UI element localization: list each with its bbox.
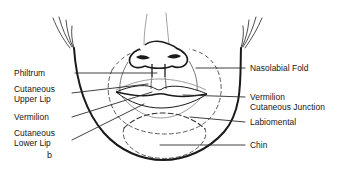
label-cutaneous-lower-lip-line-2: Lower Lip [14, 138, 55, 148]
label-cutaneous-lower-lip-line-1: Cutaneous [14, 128, 55, 138]
nose [129, 41, 187, 77]
label-labiomental: Labiomental [250, 117, 296, 127]
label-nasolabial-fold: Nasolabial Fold [250, 63, 308, 73]
leader-cutaneous-lower-lip [72, 104, 144, 140]
upper-lip-vermilion-border [116, 86, 207, 94]
panel-letter: b [47, 150, 52, 160]
nose-base [145, 66, 172, 68]
jaw-outline [74, 48, 241, 160]
nasolabial-fold-right [189, 61, 197, 91]
label-philtrum: Philtrum [14, 68, 45, 78]
label-cutaneous-upper-lip: Cutaneous Upper Lip [14, 84, 55, 104]
leader-cutaneous-upper-lip [72, 84, 148, 93]
leader-labiomental [190, 117, 245, 122]
nostrils [136, 54, 181, 59]
label-vermilion-left-line-1: Vermilion [14, 112, 49, 122]
label-chin: Chin [250, 140, 267, 150]
nose-tip [145, 41, 177, 49]
labiomental-fold-dashed [124, 113, 205, 129]
label-chin-line-1: Chin [250, 140, 267, 150]
label-nasolabial-fold-line-1: Nasolabial Fold [250, 63, 308, 73]
perioral-subunit-top-right-dashed [189, 49, 217, 69]
label-vermilion-left: Vermilion [14, 112, 49, 122]
label-philtrum-line-1: Philtrum [14, 68, 45, 78]
nostril-right [167, 54, 181, 58]
cutaneous-upper-lip-boundary [116, 79, 206, 90]
label-cutaneous-lower-lip: Cutaneous Lower Lip [14, 128, 55, 148]
label-vermilion-cutaneous-junction: Vermilion Cutaneous Junction [250, 92, 325, 112]
label-cutaneous-upper-lip-line-2: Upper Lip [14, 94, 55, 104]
label-vermilion-cutaneous-junction-line-2: Cutaneous Junction [250, 102, 325, 112]
hair-strokes-left [53, 17, 74, 48]
anatomy-figure: Philtrum Cutaneous Upper Lip Vermilion C… [0, 0, 356, 174]
nose-bridge-lines [144, 13, 169, 45]
label-cutaneous-upper-lip-line-1: Cutaneous [14, 84, 55, 94]
label-vermilion-cutaneous-junction-line-1: Vermilion [250, 92, 325, 102]
label-labiomental-line-1: Labiomental [250, 117, 296, 127]
hair-strokes-right [241, 17, 262, 48]
nostril-left [136, 55, 150, 59]
